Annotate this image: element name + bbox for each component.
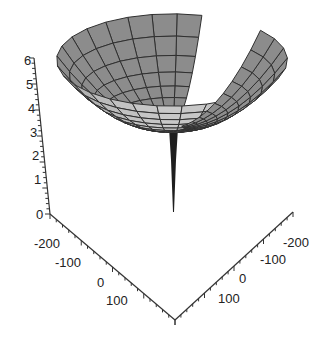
z-tick-5: 5 (26, 77, 33, 92)
left-tick-0: 0 (97, 275, 104, 290)
right-tick-100: 100 (218, 291, 240, 306)
left-axis-tick-labels: -200 -100 0 100 (34, 236, 128, 308)
surface-stem (169, 128, 178, 212)
z-tick-1: 1 (34, 172, 41, 187)
right-tick-0: 0 (239, 271, 246, 286)
left-tick-neg200: -200 (34, 236, 60, 251)
z-tick-3: 3 (30, 125, 37, 140)
surface-plot: 6 5 4 3 2 1 0 -200 -100 0 100 -200 -100 … (0, 0, 328, 338)
z-tick-6: 6 (24, 53, 31, 68)
z-tick-4: 4 (28, 101, 35, 116)
right-axis-tick-labels: -200 -100 0 100 (218, 235, 309, 306)
right-tick-neg100: -100 (260, 252, 286, 267)
left-tick-neg100: -100 (55, 255, 81, 270)
left-tick-100: 100 (106, 293, 128, 308)
z-tick-0: 0 (36, 207, 43, 222)
funnel-surface (57, 14, 287, 133)
right-tick-neg200: -200 (283, 235, 309, 250)
z-tick-2: 2 (32, 148, 39, 163)
